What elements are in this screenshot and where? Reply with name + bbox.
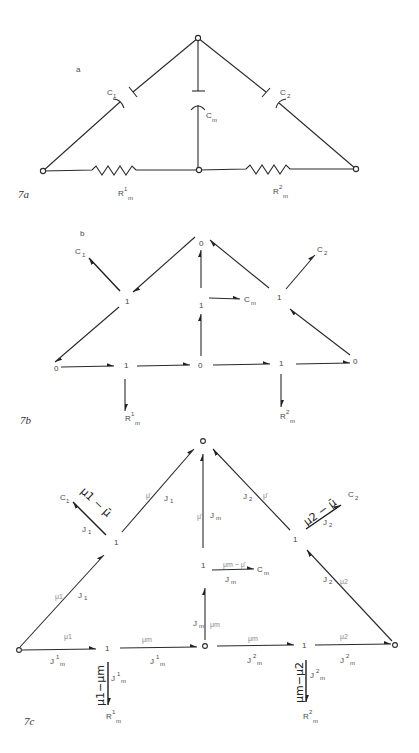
effort-mu2-diag: μ2	[340, 578, 348, 586]
capacitor-c1-branch: C 1	[43, 38, 198, 171]
svg-text:m: m	[199, 623, 204, 629]
junction-1-bottom-left: 1	[105, 644, 110, 653]
svg-text:m: m	[283, 193, 288, 199]
svg-text:J: J	[323, 575, 327, 584]
junction-1-right: 1	[293, 535, 298, 544]
svg-text:J: J	[164, 494, 168, 503]
effort-mum-vertical: μm	[210, 621, 220, 629]
effort-mum-minus-mubar: μm − μ̄	[223, 561, 246, 569]
svg-text:m: m	[212, 117, 217, 123]
svg-text:J: J	[82, 525, 86, 534]
svg-text:2: 2	[329, 522, 333, 528]
bond-left-to-top	[122, 449, 194, 532]
svg-text:J: J	[247, 656, 251, 665]
junction-1-center: 1	[201, 561, 206, 570]
bond-b1r-to-b0r	[296, 363, 350, 364]
bonds-7c	[20, 449, 392, 705]
node-top	[195, 35, 200, 40]
effort-mu1-minus-mum: μ1−μm	[94, 665, 107, 706]
svg-text:J: J	[150, 657, 154, 666]
svg-text:J: J	[193, 619, 197, 628]
svg-text:2: 2	[316, 668, 320, 674]
svg-text:m: m	[257, 660, 262, 666]
svg-text:1: 1	[124, 186, 128, 192]
bond-center-to-cm	[212, 569, 254, 570]
svg-text:m: m	[313, 718, 318, 724]
svg-text:1: 1	[117, 671, 121, 677]
svg-text:1: 1	[88, 529, 92, 535]
bond-right-to-top	[210, 240, 269, 288]
label-c2: C	[317, 245, 323, 254]
effort-mubar-center: μ̄	[197, 513, 202, 521]
svg-text:2: 2	[355, 495, 359, 501]
node-right	[353, 166, 358, 171]
bond-b0-to-b1	[22, 649, 96, 650]
svg-text:J: J	[210, 511, 214, 520]
bonds-7b	[55, 237, 350, 411]
bond-top-to-left	[133, 237, 195, 292]
junction-1-center: 1	[199, 301, 204, 310]
svg-text:2: 2	[253, 653, 257, 659]
junction-0-top: 0	[199, 239, 204, 248]
node-bottom-center	[203, 644, 208, 649]
svg-text:1: 1	[156, 654, 160, 660]
label-c1: C	[75, 247, 81, 256]
panel-7c-bond-graph: 1 1 1 1 1 μ1 − μ̄ μ2 − μ̄ μ1−μm μm−μ2	[17, 439, 398, 727]
bond-b0c-to-b1r	[217, 645, 294, 646]
node-top	[201, 439, 206, 444]
svg-text:1: 1	[112, 709, 116, 715]
bond-b1r-to-b0r	[315, 644, 391, 645]
svg-text:J: J	[310, 671, 314, 680]
bond-right-to-c2	[286, 255, 315, 289]
svg-text:2: 2	[279, 184, 283, 190]
effort-mubar-right: μ̄	[263, 492, 268, 500]
bond-bottomleft-to-left	[20, 555, 104, 647]
svg-text:2: 2	[286, 409, 290, 415]
svg-text:m: m	[160, 661, 165, 667]
effort-mum-minus-mu2: μm−μ2	[293, 662, 306, 703]
resistor-rm2: R 2 m	[199, 165, 356, 199]
effort-mum-bottom-right: μm	[248, 635, 258, 643]
label-cm: C	[257, 565, 263, 574]
svg-text:m: m	[290, 418, 295, 424]
bond-center1-to-cm	[209, 298, 240, 299]
bond-left-to-bottomleft	[55, 307, 119, 362]
caption-7c: 7c	[24, 715, 35, 727]
svg-text:J: J	[111, 674, 115, 683]
junction-1-bottom-left: 1	[124, 361, 129, 370]
svg-text:J: J	[78, 591, 82, 600]
effort-mu1-bottom: μ1	[64, 633, 72, 641]
panel-7a-circuit: a C 1 C m C 2	[18, 35, 359, 201]
svg-text:J: J	[50, 657, 54, 666]
bond-b0c-to-b1r	[213, 364, 270, 365]
svg-text:1: 1	[131, 411, 135, 417]
capacitor-c2-plate-curved	[276, 99, 286, 108]
svg-text:2: 2	[329, 579, 333, 585]
svg-text:2: 2	[324, 250, 328, 256]
junction-0-bottom-center: 0	[198, 361, 203, 370]
junction-1-right: 1	[277, 293, 282, 302]
bond-left-to-c1	[89, 258, 120, 291]
svg-text:2: 2	[249, 496, 253, 502]
caption-7a: 7a	[18, 188, 30, 200]
node-bottom-left	[17, 648, 22, 653]
node-left	[40, 168, 45, 173]
svg-text:1: 1	[170, 498, 174, 504]
svg-text:1: 1	[82, 252, 86, 258]
bond-b1-to-b0c	[137, 365, 190, 366]
svg-text:J: J	[340, 656, 344, 665]
svg-text:1: 1	[84, 595, 88, 601]
effort-mu1-minus-mubar: μ1 − μ̄	[78, 485, 114, 520]
svg-text:1: 1	[113, 93, 117, 99]
bond-b1-to-b0c	[120, 647, 197, 648]
label-c2: C	[280, 88, 286, 97]
effort-mu2-minus-mubar: μ2 − μ̄	[301, 496, 339, 528]
svg-text:m: m	[216, 515, 221, 521]
panel-letter-a: a	[76, 65, 81, 74]
svg-text:m: m	[231, 579, 236, 585]
svg-text:2: 2	[346, 653, 350, 659]
capacitor-c2-branch: C 2	[198, 38, 356, 169]
svg-text:J: J	[243, 492, 247, 501]
capacitor-c1-plate-flat	[129, 87, 137, 97]
bond-bottomright-to-right	[290, 309, 350, 355]
